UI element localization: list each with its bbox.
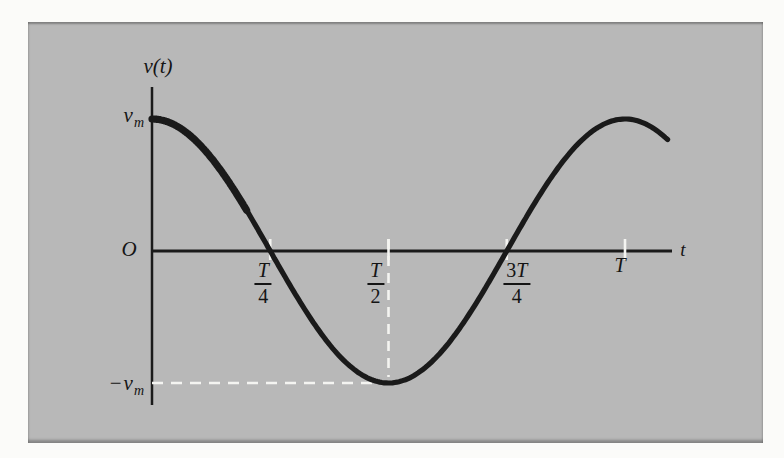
x-tick-numerator: 3T bbox=[503, 260, 530, 285]
x-axis-title: t bbox=[680, 240, 685, 259]
y-max-base: v bbox=[124, 103, 133, 127]
y-max-subscript: m bbox=[134, 115, 144, 130]
y-min-base: v bbox=[124, 371, 133, 395]
x-tick-label-T: T bbox=[614, 255, 625, 277]
y-min-label: −vm bbox=[110, 373, 144, 394]
figure-panel: v(t) vm O −vm T 4 T 2 3T 4 T t bbox=[28, 22, 763, 443]
y-min-sign: − bbox=[110, 371, 122, 395]
origin-label: O bbox=[121, 239, 136, 260]
x-tick-denominator: 4 bbox=[512, 285, 522, 308]
y-max-label: vm bbox=[122, 105, 144, 126]
waveform-curve-start bbox=[152, 119, 247, 210]
x-tick-numerator: T bbox=[367, 260, 384, 285]
x-tick-label-three-quarter-T: 3T 4 bbox=[503, 260, 530, 307]
y-axis-title: v(t) bbox=[143, 56, 172, 77]
x-tick-numerator: T bbox=[614, 255, 625, 277]
x-tick-label-quarter-T: T 4 bbox=[255, 260, 272, 307]
x-tick-numerator: T bbox=[255, 260, 272, 285]
x-tick-label-half-T: T 2 bbox=[367, 260, 384, 307]
x-tick-denominator: 4 bbox=[258, 285, 268, 308]
y-min-subscript: m bbox=[134, 383, 144, 398]
axis-tick-marks bbox=[270, 239, 625, 260]
x-tick-denominator: 2 bbox=[371, 285, 381, 308]
